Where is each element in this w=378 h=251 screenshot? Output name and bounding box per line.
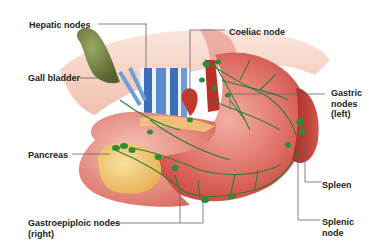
label-spleen: Spleen [322,180,352,191]
label-gastroepiploic-nodes-right: Gastroepiploic nodes (right) [28,218,120,239]
label-splenic-node: Splenic node [322,217,354,238]
label-pancreas: Pancreas [28,150,68,161]
label-gall-bladder: Gall bladder [28,73,80,84]
label-hepatic-nodes: Hepatic nodes [29,20,91,31]
label-gastric-nodes-left: Gastric nodes (left) [331,88,362,120]
label-coeliac-node: Coeliac node [229,27,285,38]
anatomy-illustration [0,0,378,251]
